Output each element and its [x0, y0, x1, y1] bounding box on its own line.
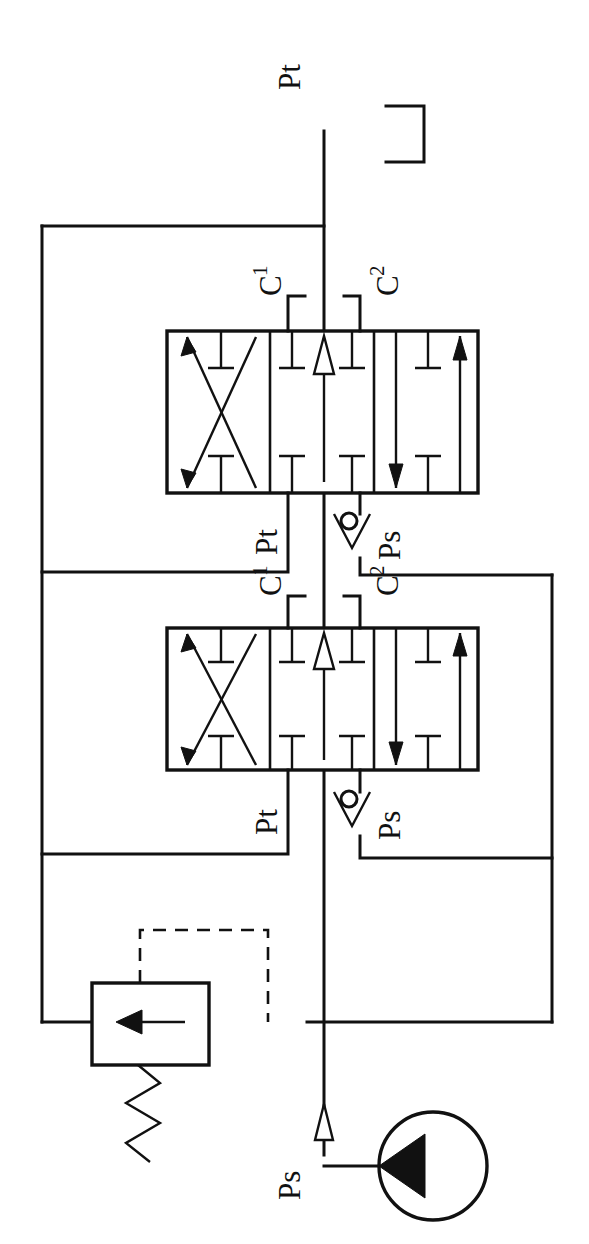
pump-label-ps: Ps	[272, 1171, 307, 1200]
tank-label-group: Pt	[272, 64, 307, 90]
check-valve-1	[334, 513, 370, 548]
valve2-label-c1-sub: 1	[248, 566, 272, 577]
reservoir-tank-symbol	[386, 106, 424, 162]
directional-valve-1	[167, 331, 478, 493]
valve1-label-c2-sub: 2	[365, 266, 389, 277]
hydraulic-pump	[324, 1112, 487, 1220]
valve1-label-ps: Ps	[372, 531, 407, 560]
hydraulic-circuit-diagram: C 1 C 2 Pt Ps	[0, 0, 589, 1244]
valve2-label-c2: C	[370, 575, 405, 596]
directional-valve-2	[167, 628, 478, 770]
pressure-relief-valve	[92, 930, 268, 1162]
valve1-label-c1-sub: 1	[248, 266, 272, 277]
pump-label-group: Ps	[272, 1171, 307, 1200]
valve1-label-pt: Pt	[249, 529, 284, 555]
supply-flow-arrow	[315, 1104, 333, 1140]
valve1-label-c1: C	[253, 275, 288, 296]
valve1-label-c2: C	[370, 275, 405, 296]
valve2-label-c1: C	[253, 575, 288, 596]
check-valve-2	[334, 791, 370, 826]
circuit-svg: C 1 C 2 Pt Ps	[0, 0, 589, 1244]
valve2-label-c2-sub: 2	[365, 566, 389, 577]
valve2-label-pt: Pt	[249, 809, 284, 835]
tank-label-pt: Pt	[272, 64, 307, 90]
valve2-label-ps: Ps	[372, 811, 407, 840]
